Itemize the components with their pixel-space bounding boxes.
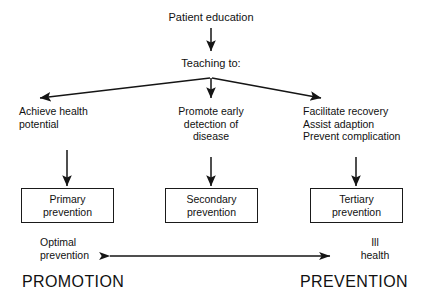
continuum-label-ill-health: Ill health <box>340 236 410 261</box>
box-tertiary-prevention: Tertiary prevention <box>310 188 403 223</box>
box-secondary-prevention: Secondary prevention <box>165 188 258 223</box>
branch-promote-early-detection: Promote early detection of disease <box>151 105 271 143</box>
branch-facilitate-recovery: Facilitate recovery Assist adaption Prev… <box>303 105 423 143</box>
box-primary-prevention-label: Primary prevention <box>43 193 92 218</box>
node-patient-education: Patient education <box>141 11 281 24</box>
connector-teaching-to-left <box>40 78 210 98</box>
node-teaching-to: Teaching to: <box>151 57 271 70</box>
box-primary-prevention: Primary prevention <box>21 188 114 223</box>
patient-education-diagram: Patient education Teaching to: Achieve h… <box>0 0 423 305</box>
heading-promotion: PROMOTION <box>22 273 124 291</box>
box-secondary-prevention-label: Secondary prevention <box>186 193 236 218</box>
connector-teaching-to-right <box>212 78 321 98</box>
box-tertiary-prevention-label: Tertiary prevention <box>332 193 381 218</box>
continuum-label-optimal-prevention: Optimal prevention <box>40 236 130 261</box>
branch-achieve-health-potential: Achieve health potential <box>19 105 149 130</box>
heading-prevention: PREVENTION <box>300 273 408 291</box>
